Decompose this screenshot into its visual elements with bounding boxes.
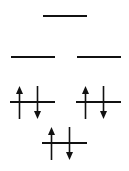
orbital-middle-right (77, 56, 121, 58)
electron-arrow-up-orbital-lower-left (16, 86, 23, 119)
orbital-middle-left (11, 56, 55, 58)
orbital-top-center (43, 15, 87, 17)
electron-arrow-up-orbital-lower-right (82, 86, 89, 119)
electron-arrow-down-orbital-bottom-center (66, 127, 73, 160)
electron-arrow-up-orbital-bottom-center (48, 127, 55, 160)
molecular-orbital-diagram: Molecular Orbital Energy Level Diagram (0, 0, 129, 171)
electron-arrow-down-orbital-lower-left (34, 86, 41, 119)
electron-arrow-down-orbital-lower-right (100, 86, 107, 119)
